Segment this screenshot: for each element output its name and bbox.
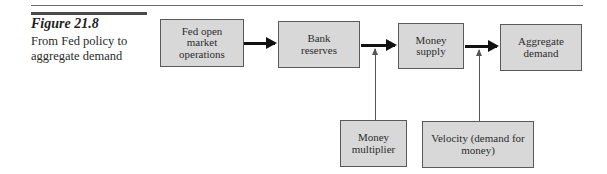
- node-money-multiplier: Money multiplier: [340, 120, 407, 167]
- line-velocity-to-arrow: [479, 50, 480, 121]
- figure-caption: From Fed policy to aggregate demand: [31, 34, 151, 64]
- figure-number: Figure 21.8: [31, 16, 99, 32]
- node-money-supply: Money supply: [398, 23, 464, 69]
- node-bank-reserves: Bank reserves: [278, 21, 360, 68]
- node-label: Velocity (demand for money): [428, 133, 528, 156]
- node-velocity: Velocity (demand for money): [422, 121, 534, 168]
- arrow-reserves-to-money-supply: [361, 44, 395, 47]
- node-label: Money multiplier: [349, 132, 399, 155]
- top-rule: [31, 5, 583, 6]
- figure-label-rule: [31, 12, 147, 15]
- node-label: Money supply: [409, 35, 453, 58]
- line-multiplier-to-arrow: [375, 49, 376, 120]
- arrow-money-supply-to-aggregate-demand: [465, 45, 497, 48]
- node-aggregate-demand: Aggregate demand: [500, 24, 582, 71]
- node-label: Bank reserves: [294, 33, 344, 56]
- arrow-omo-to-reserves: [244, 42, 275, 45]
- node-label: Aggregate demand: [513, 36, 569, 59]
- node-fed-open-market-operations: Fed open market operations: [160, 19, 244, 67]
- node-label: Fed open market operations: [172, 26, 232, 61]
